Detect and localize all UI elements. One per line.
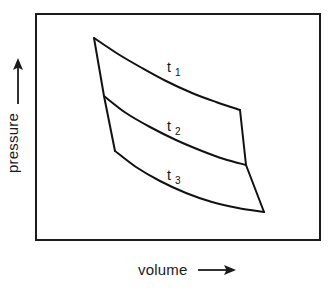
pressure-axis-arrow-icon (13, 58, 23, 104)
figure-canvas: t 1 t 2 t 3 pressure volume (0, 0, 332, 294)
curve-label-t3-subscript: 3 (175, 175, 181, 186)
x-axis-label: volume (138, 261, 188, 278)
left-boundary-line (94, 38, 115, 151)
curve-label-t1: t (167, 59, 171, 75)
pv-isotherm-figure: t 1 t 2 t 3 pressure volume (0, 0, 332, 294)
curve-label-t2-subscript: 2 (175, 126, 181, 137)
right-boundary-line (240, 110, 264, 212)
curve-t3 (115, 151, 264, 212)
curve-label-t2: t (167, 118, 171, 134)
curve-label-t3: t (167, 167, 171, 183)
volume-axis-arrow-icon (198, 265, 236, 275)
y-axis-label: pressure (4, 113, 21, 173)
curve-label-t1-subscript: 1 (175, 67, 181, 78)
